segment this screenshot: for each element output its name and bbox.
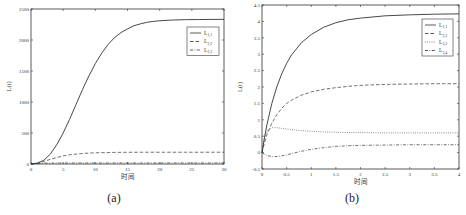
y-tick-label: 3.5 — [254, 36, 261, 41]
x-tick-label: 1.5 — [333, 172, 340, 177]
chart-panel-b: 00.511.522.533.54-0.500.511.522.533.544.… — [233, 0, 466, 215]
x-tick-label: 3 — [409, 172, 412, 177]
panel-label-b: (b) — [332, 191, 372, 206]
x-axis-label: 时间 — [354, 177, 368, 186]
x-tick-label: 30 — [222, 167, 228, 172]
x-tick-label: 1 — [310, 172, 313, 177]
legend: L1,1L2,2L3,3L3,4 — [422, 19, 453, 56]
y-tick-label: 1000 — [19, 100, 30, 105]
y-tick-label: 4 — [258, 19, 261, 24]
y-tick-label: 2.5 — [254, 68, 261, 73]
x-tick-label: 5 — [62, 167, 65, 172]
y-tick-label: 4.5 — [254, 3, 261, 8]
x-tick-label: 2.5 — [382, 172, 389, 177]
y-tick-label: -0.5 — [252, 167, 260, 172]
x-tick-label: 2 — [359, 172, 362, 177]
series-line-2-2 — [262, 84, 459, 153]
y-tick-label: 0.5 — [254, 134, 261, 139]
x-tick-label: 0 — [261, 172, 264, 177]
x-tick-label: 20 — [157, 167, 163, 172]
y-axis-label: L(t) — [236, 82, 244, 92]
y-axis-label: L(t) — [5, 81, 13, 91]
line-chart-b: 00.511.522.533.54-0.500.511.522.533.544.… — [233, 0, 466, 215]
x-axis-label: 时间 — [121, 172, 135, 181]
y-tick-label: 500 — [22, 131, 30, 136]
x-tick-label: 15 — [125, 167, 131, 172]
y-tick-label: 1.5 — [254, 101, 261, 106]
x-tick-label: 0 — [30, 167, 33, 172]
x-tick-label: 25 — [189, 167, 195, 172]
panel-label-a: (a) — [94, 191, 134, 206]
series-line-3-4 — [262, 145, 459, 157]
chart-panel-a: 05101520253005001000150020002500时间L(t)L1… — [0, 0, 233, 215]
y-tick-label: 2 — [258, 85, 261, 90]
y-tick-label: 0 — [27, 162, 30, 167]
y-tick-label: 1500 — [19, 69, 30, 74]
x-tick-label: 10 — [93, 167, 99, 172]
legend: L1,1L2,2L3,3 — [187, 27, 219, 56]
line-chart-a: 05101520253005001000150020002500时间L(t)L1… — [0, 0, 233, 215]
x-tick-label: 3.5 — [431, 172, 438, 177]
y-tick-label: 2000 — [19, 38, 30, 43]
x-tick-label: 4 — [458, 172, 461, 177]
y-tick-label: 0 — [258, 150, 261, 155]
y-tick-label: 1 — [258, 118, 261, 123]
x-tick-label: 0.5 — [284, 172, 291, 177]
y-tick-label: 3 — [258, 52, 261, 57]
series-line-3-3 — [262, 128, 459, 153]
y-tick-label: 2500 — [19, 7, 30, 12]
